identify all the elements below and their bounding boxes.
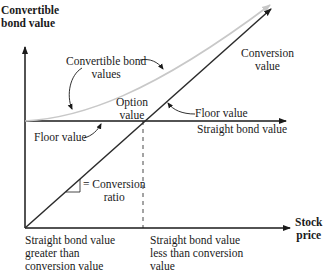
floor-value-label-left: Floor value <box>34 131 87 144</box>
floor-value-label-right: Floor value <box>195 107 248 120</box>
floor-pointer-right <box>168 103 195 114</box>
option-value-label: Option value <box>116 96 148 122</box>
region-right-label: Straight bond value less than conversion… <box>150 234 243 273</box>
conversion-value-label: Conversion value <box>241 47 294 73</box>
x-axis-label: Stock price <box>295 216 322 242</box>
region-left-label: Straight bond value greater than convers… <box>25 234 115 273</box>
y-axis-label: Convertible bond value <box>1 4 59 30</box>
straight-bond-value-label: Straight bond value <box>197 123 287 136</box>
convertible-bond-values-label: Convertible bond values <box>66 55 146 81</box>
conversion-ratio-label: = Conversion ratio <box>83 178 145 204</box>
